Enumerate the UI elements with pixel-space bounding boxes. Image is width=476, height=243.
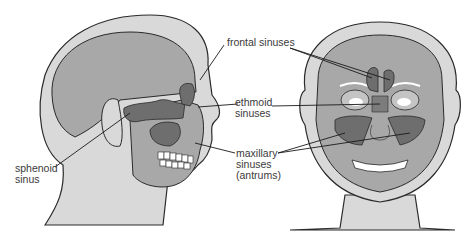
side-view-head <box>40 15 219 225</box>
front-frontal-sinus-right <box>367 68 378 93</box>
sinus-diagram: frontal sinuses ethmoid sinuses maxillar… <box>0 0 476 243</box>
side-frontal-sinus <box>180 83 195 106</box>
label-ethmoid-line2: sinuses <box>235 108 272 119</box>
label-ethmoid-sinuses: ethmoid sinuses <box>235 97 272 119</box>
label-maxillary-sinuses: maxillary sinuses (antrums) <box>236 148 281 181</box>
label-sphenoid-line2: sinus <box>15 174 58 185</box>
label-maxillary-line3: (antrums) <box>236 170 281 181</box>
label-sphenoid-sinus: sphenoid sinus <box>15 163 58 185</box>
front-view-head <box>290 22 460 230</box>
front-eye-left <box>397 98 411 106</box>
label-frontal-sinuses: frontal sinuses <box>227 37 295 48</box>
